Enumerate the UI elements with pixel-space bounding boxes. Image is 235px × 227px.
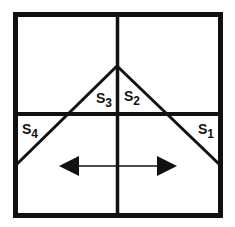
label-s1: S1 (198, 121, 214, 141)
label-s2: S2 (124, 88, 140, 108)
arrow-right-head-icon (157, 156, 177, 176)
label-s4: S4 (22, 121, 38, 141)
label-s3: S3 (96, 90, 112, 110)
diagram-canvas: S3 S2 S4 S1 (0, 0, 235, 227)
arrow-left-head-icon (59, 156, 79, 176)
